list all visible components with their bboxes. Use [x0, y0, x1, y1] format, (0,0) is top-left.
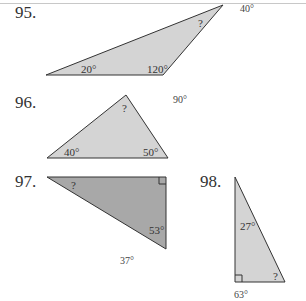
problem-number-97: 97.	[15, 172, 36, 192]
angle-label-96-a: 40°	[64, 147, 79, 158]
angle-label-96-unknown: ?	[122, 103, 127, 114]
answer-96: 90°	[173, 95, 187, 105]
answer-98: 63°	[234, 290, 248, 300]
triangle-95	[46, 5, 223, 75]
angle-label-95-unknown: ?	[198, 18, 203, 29]
angle-label-95-a: 20°	[81, 64, 96, 75]
answer-95: 40°	[240, 4, 254, 14]
problem-number-95: 95.	[15, 3, 36, 23]
triangle-97	[47, 177, 166, 249]
angle-label-95-b: 120°	[147, 64, 168, 75]
problem-number-98: 98.	[200, 172, 221, 192]
problem-number-96: 96.	[15, 93, 36, 113]
angle-label-98-unknown: ?	[273, 271, 278, 282]
answer-97: 37°	[120, 256, 134, 266]
angle-label-97-unknown: ?	[71, 180, 76, 191]
angle-label-97-a: 53°	[149, 225, 164, 236]
angle-label-96-b: 50°	[143, 147, 158, 158]
angle-label-98-a: 27°	[240, 221, 255, 232]
